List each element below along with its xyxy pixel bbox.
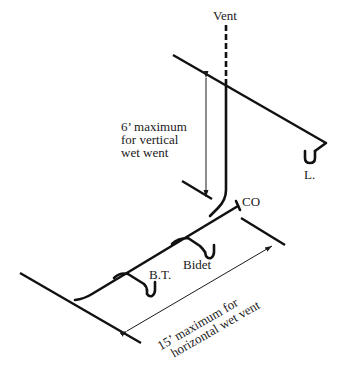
horizontal-right-marker: [241, 218, 285, 245]
vertical-dimension-label: 6’ maximum for vertical wet went: [121, 120, 187, 159]
bidet-branch: [172, 238, 205, 252]
vertical-lower-marker: [182, 181, 212, 199]
cleanout-cap: [236, 201, 240, 210]
vertical-stack: [210, 83, 226, 216]
horizontal-left-marker: [20, 273, 141, 343]
bathtub-branch: [114, 274, 147, 291]
vent-label: Vent: [213, 9, 237, 22]
diagram-canvas: [0, 0, 346, 371]
cleanout-label: CO: [242, 195, 260, 208]
vertical-dimension-line-3: wet went: [121, 146, 187, 159]
bathtub-label: B.T.: [149, 268, 171, 281]
lavatory-arm: [315, 143, 326, 151]
lavatory-trap: [305, 151, 315, 163]
upper-floor-line: [173, 55, 326, 143]
bidet-label: Bidet: [183, 258, 211, 271]
lavatory-label: L.: [304, 168, 315, 181]
